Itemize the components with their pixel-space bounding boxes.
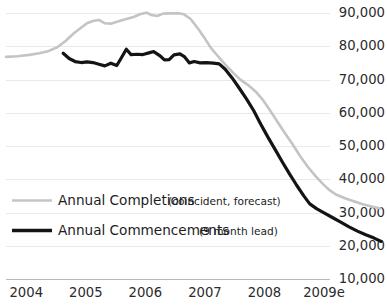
y-axis-tick-labels: 90,00080,00070,00060,00050,00040,00030,0… — [339, 5, 385, 286]
x-axis-tick-label: 2007 — [188, 285, 222, 300]
y-axis-tick-label: 80,000 — [339, 38, 385, 53]
chart-container: 90,00080,00070,00060,00050,00040,00030,0… — [0, 0, 387, 308]
y-axis-tick-label: 70,000 — [339, 72, 385, 87]
x-axis-tick-label: 2004 — [9, 285, 43, 300]
legend-note-commencements: (9 month lead) — [199, 225, 278, 237]
y-axis-tick-label: 60,000 — [339, 105, 385, 120]
y-axis-tick-label: 50,000 — [339, 138, 385, 153]
x-axis-tick-label: 2009e — [303, 285, 345, 300]
y-axis-tick-label: 40,000 — [339, 171, 385, 186]
x-axis-tick-label: 2005 — [69, 285, 103, 300]
legend-note-completions: (coincident, forecast) — [168, 195, 281, 207]
legend-item-completions[interactable]: Annual Completions (coincident, forecast… — [12, 192, 281, 208]
line-chart: 90,00080,00070,00060,00050,00040,00030,0… — [0, 0, 387, 308]
y-axis-tick-label: 90,000 — [339, 5, 385, 20]
y-axis-tick-label: 10,000 — [339, 271, 385, 286]
legend: Annual Completions (coincident, forecast… — [12, 192, 281, 238]
legend-item-commencements[interactable]: Annual Commencements (9 month lead) — [12, 222, 278, 238]
x-axis-tick-label: 2006 — [129, 285, 163, 300]
x-axis-tick-labels: 200420052006200720082009e — [9, 285, 344, 300]
series-line-annual-commencements — [63, 49, 381, 241]
x-axis-tick-label: 2008 — [248, 285, 282, 300]
